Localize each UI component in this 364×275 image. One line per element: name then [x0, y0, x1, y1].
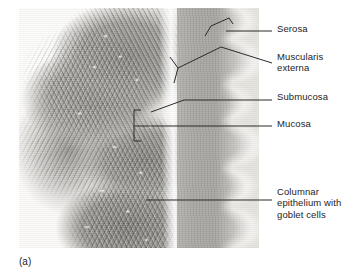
- micrograph-image: [19, 8, 259, 248]
- label-mucosa: Mucosa: [277, 118, 311, 129]
- label-serosa: Serosa: [277, 23, 308, 34]
- histology-figure: Serosa Muscularis externa Submucosa Muco…: [0, 0, 364, 275]
- label-submucosa: Submucosa: [277, 91, 328, 102]
- label-muscularis-externa: Muscularis externa: [277, 51, 323, 74]
- label-columnar-epithelium: Columnar epithelium with goblet cells: [277, 186, 341, 220]
- figure-caption: (a): [19, 256, 31, 267]
- serosa-region: [215, 8, 259, 248]
